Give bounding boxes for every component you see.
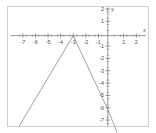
y-tick-label: -4 (99, 80, 104, 86)
plot-svg: -7 -6 -5 -4 -3 -2 -1 1 2 2 1 -1 -2 -3 -4… (0, 0, 156, 133)
y-tick-label: -6 (99, 105, 104, 111)
x-tick-label: 1 (122, 39, 125, 45)
y-tick-label: -3 (99, 68, 104, 74)
y-tick-label: -2 (99, 55, 104, 61)
x-tick-labels: -7 -6 -5 -4 -3 -2 -1 1 2 (20, 39, 137, 45)
x-tick-label: -3 (71, 39, 76, 45)
y-tick-label: -5 (99, 92, 104, 98)
y-tick-label: 2 (101, 6, 104, 12)
x-tick-label: -4 (58, 39, 63, 45)
x-tick-label: -2 (83, 39, 88, 45)
x-axis-label: x (142, 27, 146, 33)
x-tick-label: 2 (135, 39, 138, 45)
y-tick-label: -1 (99, 43, 104, 49)
y-axis-label: y (110, 6, 114, 12)
y-tick-labels: 2 1 -1 -2 -3 -4 -5 -6 -7 (99, 6, 104, 123)
x-tick-label: -6 (33, 39, 38, 45)
chart-screenshot: -7 -6 -5 -4 -3 -2 -1 1 2 2 1 -1 -2 -3 -4… (0, 0, 156, 133)
x-tick-label: -5 (46, 39, 51, 45)
x-tick-label: -7 (20, 39, 25, 45)
y-tick-label: 1 (101, 18, 104, 24)
y-tick-label: -7 (99, 117, 104, 123)
